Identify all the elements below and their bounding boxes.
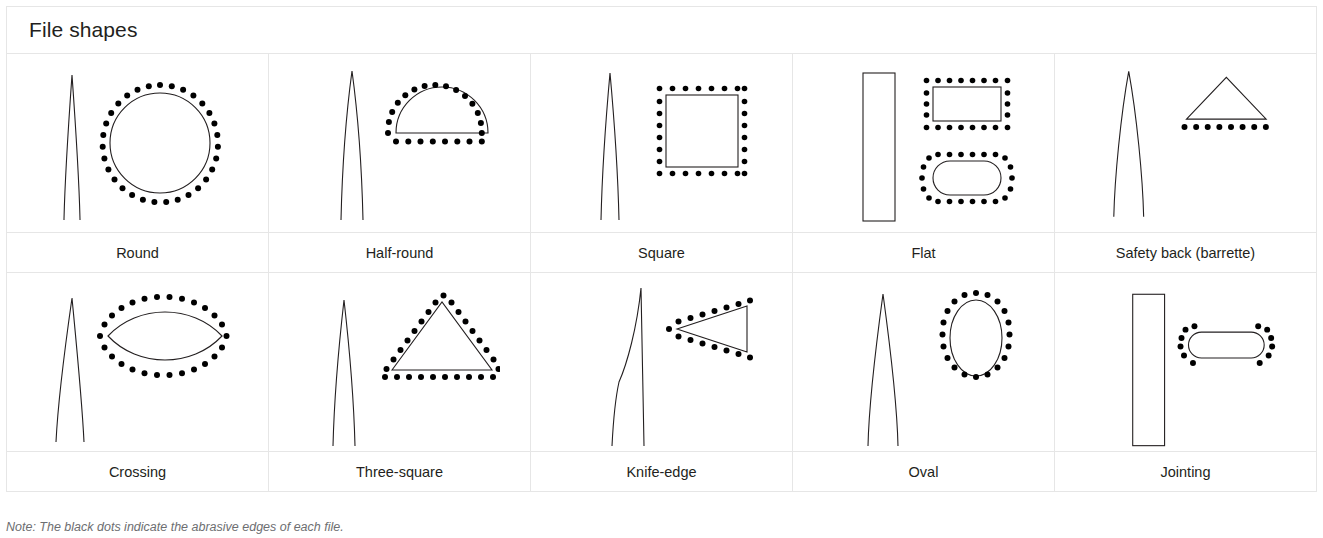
cross-section-square: [656, 86, 747, 177]
cell-flat: Flat: [793, 54, 1055, 272]
cell-round: Round: [7, 54, 269, 272]
profile-tapered: [868, 294, 898, 446]
profile-tapered: [601, 73, 619, 220]
figure-header: File shapes: [7, 7, 1316, 54]
profile-tapered: [1114, 71, 1144, 216]
diagram-flat: [793, 54, 1054, 232]
diagram-crossing: [7, 273, 268, 451]
cross-section-wedge: [666, 298, 753, 361]
label-crossing: Crossing: [7, 451, 268, 491]
label-safety-back: Safety back (barrette): [1055, 232, 1316, 272]
abrasive-dots: [99, 82, 220, 205]
table-row: Round: [7, 54, 1316, 272]
profile-parallel: [1133, 294, 1165, 445]
abrasive-dots-rectangle: [924, 78, 1011, 131]
abrasive-dots: [1178, 323, 1276, 366]
label-square: Square: [531, 232, 792, 272]
cell-crossing: Crossing: [7, 273, 269, 491]
diagram-half-round: [269, 54, 530, 232]
cell-oval: Oval: [793, 273, 1055, 491]
file-shapes-table: File shapes: [6, 6, 1317, 492]
profile-tapered: [56, 298, 84, 442]
diagram-jointing: [1055, 273, 1316, 451]
label-half-round: Half-round: [269, 232, 530, 272]
label-three-square: Three-square: [269, 451, 530, 491]
page-title: File shapes: [29, 18, 138, 42]
label-flat: Flat: [793, 232, 1054, 272]
cross-section-flat-triangle: [1182, 77, 1269, 130]
abrasive-dots: [666, 298, 753, 361]
file-shapes-figure: File shapes: [0, 0, 1323, 538]
label-oval: Oval: [793, 451, 1054, 491]
cell-knife-edge: Knife-edge: [531, 273, 793, 491]
cross-section-rectangle: [924, 78, 1011, 131]
cross-section-rounded-rectangle: [919, 152, 1015, 205]
cross-section-lens: [97, 294, 230, 378]
abrasive-dots: [1182, 124, 1269, 130]
diagram-square: [531, 54, 792, 232]
cross-section-ellipse: [940, 290, 1013, 380]
cell-three-square: Three-square: [269, 273, 531, 491]
diagram-oval: [793, 273, 1054, 451]
profile-knife-taper: [612, 288, 644, 446]
cross-section-semicircle: [385, 82, 488, 145]
cell-half-round: Half-round: [269, 54, 531, 272]
diagram-three-square: [269, 273, 530, 451]
figure-note: Note: The black dots indicate the abrasi…: [6, 520, 344, 534]
profile-tapered: [333, 300, 355, 446]
abrasive-dots: [656, 86, 747, 177]
cross-section-circle: [99, 82, 220, 205]
profile-parallel: [863, 73, 895, 221]
cell-jointing: Jointing: [1055, 273, 1316, 491]
cell-safety-back: Safety back (barrette): [1055, 54, 1316, 272]
abrasive-dots: [97, 294, 230, 378]
profile-tapered: [341, 71, 363, 220]
label-jointing: Jointing: [1055, 451, 1316, 491]
cross-section-triangle: [382, 293, 500, 381]
diagram-knife-edge: [531, 273, 792, 451]
cross-section-stadium: [1178, 323, 1276, 366]
label-round: Round: [7, 232, 268, 272]
diagram-round: [7, 54, 268, 232]
label-knife-edge: Knife-edge: [531, 451, 792, 491]
profile-tapered: [64, 75, 80, 220]
diagram-safety-back: [1055, 54, 1316, 232]
table-row: Crossing: [7, 272, 1316, 491]
abrasive-dots: [382, 293, 500, 381]
cell-square: Square: [531, 54, 793, 272]
